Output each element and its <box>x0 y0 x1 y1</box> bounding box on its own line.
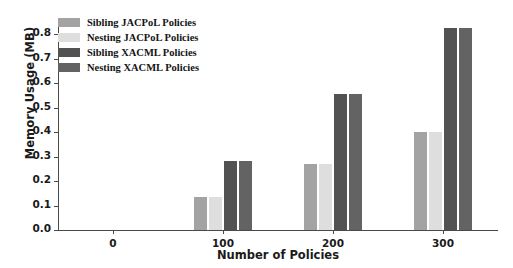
y-tick-label: 0.3 <box>32 149 51 161</box>
y-tick-mark <box>54 132 58 133</box>
x-tick: 0 <box>93 230 133 231</box>
x-tick: 100 <box>203 230 243 231</box>
bar <box>414 132 427 230</box>
legend-item: Sibling JACPoL Policies <box>58 16 199 28</box>
legend-item: Nesting JACPoL Policies <box>58 31 199 43</box>
x-tick-mark <box>223 230 224 234</box>
x-tick-mark <box>443 230 444 234</box>
legend-label: Sibling XACML Policies <box>87 47 197 58</box>
bar <box>459 28 472 230</box>
legend-swatch-icon <box>58 18 80 27</box>
memory-usage-bar-chart: Memory Usage (MB) 0.00.10.20.30.40.50.60… <box>0 0 513 268</box>
y-tick-mark <box>54 230 58 231</box>
y-tick-label: 0.6 <box>32 75 51 87</box>
legend-swatch-icon <box>58 63 80 72</box>
y-tick-mark <box>54 157 58 158</box>
bar <box>349 94 362 230</box>
legend-label: Sibling JACPoL Policies <box>87 17 196 28</box>
bar <box>429 132 442 230</box>
bar <box>194 197 207 230</box>
y-tick-mark <box>54 181 58 182</box>
x-tick: 300 <box>423 230 463 231</box>
y-tick-mark <box>54 83 58 84</box>
y-tick-label: 0.1 <box>32 198 51 210</box>
y-tick-mark <box>54 206 58 207</box>
y-tick-label: 0.5 <box>32 100 51 112</box>
chart-legend: Sibling JACPoL PoliciesNesting JACPoL Po… <box>58 16 199 73</box>
x-tick-mark <box>333 230 334 234</box>
legend-item: Nesting XACML Policies <box>58 61 199 73</box>
y-tick-label: 0.0 <box>32 222 51 234</box>
bar <box>444 28 457 230</box>
bar <box>224 161 237 230</box>
legend-item: Sibling XACML Policies <box>58 46 199 58</box>
legend-swatch-icon <box>58 33 80 42</box>
bar <box>334 94 347 230</box>
x-axis-title: Number of Policies <box>58 248 498 262</box>
x-tick: 200 <box>313 230 353 231</box>
x-tick-mark <box>113 230 114 234</box>
legend-swatch-icon <box>58 48 80 57</box>
bar <box>304 164 317 230</box>
y-tick-label: 0.2 <box>32 173 51 185</box>
legend-label: Nesting XACML Policies <box>87 62 199 73</box>
bar <box>319 164 332 230</box>
y-tick-mark <box>54 108 58 109</box>
y-tick-label: 0.4 <box>32 124 51 136</box>
bar <box>209 197 222 230</box>
y-tick-label: 0.8 <box>32 26 51 38</box>
y-tick-label: 0.7 <box>32 51 51 63</box>
legend-label: Nesting JACPoL Policies <box>87 32 198 43</box>
bar <box>239 161 252 230</box>
